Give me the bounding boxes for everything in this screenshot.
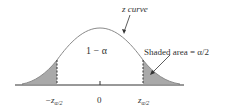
normal-curve-diagram: z curve 1 − α Shaded area = α/2 −zα/2 0 … [0,0,233,111]
zero-label: 0 [97,95,102,105]
arrowhead-icon [122,29,126,34]
tail-annotation: Shaded area = α/2 [144,47,209,57]
right-critical-label: zα/2 [137,95,149,106]
curve-label-arrow [124,15,130,32]
tail-annotation-arrow [152,55,170,73]
left-critical-label: −zα/2 [45,95,62,106]
left-shaded-tail [22,60,57,84]
center-region-label: 1 − α [86,45,108,56]
curve-label: z curve [121,4,148,14]
